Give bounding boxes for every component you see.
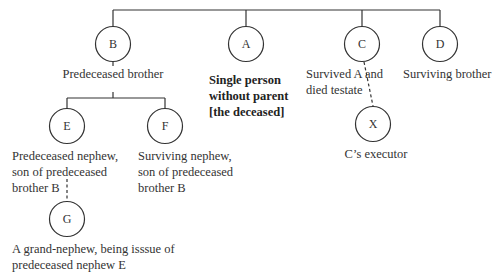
caption-line: Single person (209, 72, 288, 88)
caption-line: brother B (138, 180, 233, 196)
caption-line: A grand-nephew, being isssue of (12, 241, 175, 257)
node-letter: F (162, 119, 169, 133)
node-G: G (50, 202, 85, 237)
caption-line: Surviving nephew, (138, 148, 233, 164)
caption-F: Surviving nephew, son of predeceased bro… (138, 148, 233, 196)
caption-line: [the deceased] (209, 104, 288, 120)
caption-E: Predeceased nephew, son of predeceased b… (12, 148, 118, 196)
node-letter: X (369, 117, 378, 131)
node-A: A (229, 27, 264, 62)
caption-line: Survived A and (306, 66, 383, 82)
caption-line: Predeceased brother (63, 66, 164, 82)
caption-line: without parent (209, 88, 288, 104)
node-X: X (356, 107, 391, 142)
node-letter: E (63, 119, 70, 133)
caption-line: son of predeceased (12, 164, 118, 180)
node-E: E (50, 109, 85, 144)
caption-line: died testate (306, 82, 383, 98)
node-letter: A (242, 37, 251, 51)
node-F: F (148, 109, 183, 144)
caption-C: Survived A and died testate (306, 66, 383, 98)
node-B: B (96, 27, 131, 62)
caption-line: C’s executor (345, 146, 408, 162)
caption-line: predeceased nephew E (12, 257, 175, 273)
node-letter: B (109, 37, 117, 51)
caption-X: C’s executor (345, 146, 408, 162)
caption-line: Predeceased nephew, (12, 148, 118, 164)
node-letter: G (63, 212, 72, 226)
node-letter: C (358, 37, 366, 51)
node-C: C (345, 27, 380, 62)
node-letter: D (436, 37, 445, 51)
caption-A: Single person without parent [the deceas… (209, 72, 288, 120)
caption-line: son of predeceased (138, 164, 233, 180)
caption-D: Surviving brother (403, 66, 492, 82)
node-D: D (423, 27, 458, 62)
caption-line: Surviving brother (403, 66, 492, 82)
caption-B: Predeceased brother (63, 66, 164, 82)
caption-G: A grand-nephew, being isssue of predecea… (12, 241, 175, 273)
caption-line: brother B (12, 180, 118, 196)
